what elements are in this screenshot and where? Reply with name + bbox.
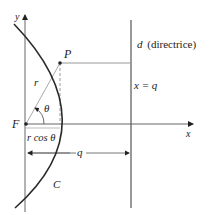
focus-point — [24, 122, 28, 126]
q-label: q — [77, 146, 83, 158]
point-p-label: P — [63, 47, 72, 61]
x-axis-label: x — [185, 128, 191, 139]
angle-label: θ — [44, 102, 50, 114]
radius-line — [26, 63, 60, 124]
parabola-diagram: y x d (directrice) x = q r θ r cos θ q C… — [0, 0, 209, 215]
directrix-equation: x = q — [133, 79, 158, 91]
radius-label: r — [34, 76, 39, 88]
directrix-label: d (directrice) — [137, 38, 196, 51]
focus-label: F — [11, 117, 20, 131]
rcos-label: r cos θ — [27, 132, 56, 143]
y-axis-label: y — [14, 11, 20, 22]
point-p — [58, 61, 62, 65]
curve-label: C — [53, 178, 61, 190]
angle-arc — [35, 108, 44, 124]
